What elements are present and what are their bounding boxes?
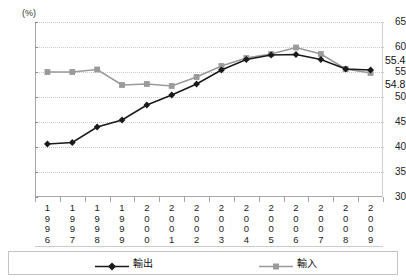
x-axis-tick-label: 2004: [235, 203, 257, 245]
data-point-marker: [293, 51, 300, 58]
x-axis-tick-label: 1999: [111, 203, 133, 245]
x-axis-tick-mark: [110, 197, 111, 202]
data-point-marker: [143, 102, 150, 109]
x-axis-tick-label: 1998: [86, 203, 108, 245]
x-axis-tick-mark: [85, 197, 86, 202]
legend-item-exports[interactable]: 輸出: [95, 257, 153, 270]
data-point-marker: [119, 117, 126, 124]
x-axis-tick-label: 2002: [186, 203, 208, 245]
data-point-marker: [69, 69, 75, 75]
x-axis-bottom-rule: [35, 246, 383, 247]
y-axis-tick-label: 60: [380, 42, 406, 52]
x-axis-tick-mark: [259, 197, 260, 202]
legend-item-imports[interactable]: 輸入: [259, 257, 317, 270]
y-axis-unit-label: (%): [22, 8, 36, 18]
x-axis-tick-label: 1997: [61, 203, 83, 245]
x-axis-tick-mark: [234, 197, 235, 202]
x-axis-tick-label: 2005: [260, 203, 282, 245]
x-axis-tick-label: 2009: [360, 203, 382, 245]
data-point-marker: [45, 69, 51, 75]
data-point-marker: [44, 141, 51, 148]
chart-legend: 輸出 輸入: [8, 251, 398, 275]
x-axis-tick-mark: [383, 197, 384, 202]
data-point-marker: [144, 81, 150, 87]
x-axis-tick-label: 2003: [210, 203, 232, 245]
cropped-title-strip: [0, 0, 406, 7]
x-axis-tick-mark: [209, 197, 210, 202]
legend-square-icon: [259, 258, 293, 269]
x-axis-tick-mark: [333, 197, 334, 202]
legend-label-exports: 輸出: [133, 258, 153, 269]
data-point-marker: [193, 81, 200, 88]
x-axis-tick-label: 2001: [161, 203, 183, 245]
y-axis-tick-label: 45: [380, 117, 406, 127]
legend-diamond-icon: [95, 258, 129, 269]
x-axis-tick-mark: [284, 197, 285, 202]
y-axis-tick-label: 65: [380, 17, 406, 27]
x-axis-tick-mark: [35, 197, 36, 202]
x-axis-tick-mark: [159, 197, 160, 202]
x-axis-tick-label: 2000: [136, 203, 158, 245]
x-axis-tick-label: 2006: [285, 203, 307, 245]
data-point-marker: [293, 45, 299, 51]
x-axis-tick-mark: [308, 197, 309, 202]
y-axis-tick-label: 50: [380, 92, 406, 102]
data-point-marker: [194, 74, 200, 80]
data-point-marker: [119, 82, 125, 88]
data-point-marker: [318, 51, 324, 57]
x-axis-tick-mark: [358, 197, 359, 202]
x-axis-tick-mark: [184, 197, 185, 202]
x-axis-tick-label: 2007: [310, 203, 332, 245]
data-point-marker: [94, 67, 100, 73]
callout-exports-value: 55.4: [385, 55, 405, 66]
data-point-marker: [168, 92, 175, 99]
x-axis-tick-label: 2008: [335, 203, 357, 245]
legend-label-imports: 輸入: [297, 258, 317, 269]
data-point-marker: [317, 56, 324, 63]
data-point-marker: [169, 83, 175, 89]
data-point-marker: [94, 124, 101, 131]
data-point-marker: [69, 139, 76, 146]
y-axis-tick-label: 35: [380, 167, 406, 177]
data-series-layer: [35, 22, 383, 197]
chart-container: (%) 6560555045403530 1996199719981999200…: [0, 0, 406, 280]
callout-imports-value: 54.8: [385, 79, 405, 90]
y-axis-tick-label: 40: [380, 142, 406, 152]
y-axis-tick-label: 55: [380, 67, 406, 77]
x-axis-tick-label: 1996: [36, 203, 58, 245]
x-axis-tick-mark: [60, 197, 61, 202]
x-axis-tick-mark: [134, 197, 135, 202]
